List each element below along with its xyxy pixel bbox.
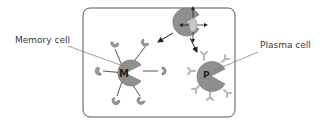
antibody-icon	[222, 55, 229, 62]
receptor-icon	[162, 67, 166, 75]
diagram-canvas: M P	[0, 0, 320, 121]
plasma-cell-icon	[197, 62, 225, 92]
antibody-icon	[201, 52, 207, 60]
memory-cell-label: Memory cell	[15, 35, 70, 45]
receptor-icon	[137, 97, 145, 104]
memory-cell-receptors	[103, 47, 158, 96]
antibody-icon	[224, 90, 231, 97]
antibody-icon	[207, 92, 213, 100]
antigen-icon	[189, 18, 197, 32]
antibody-icon	[188, 68, 195, 74]
receptor-icons	[95, 39, 166, 105]
receptor-icon	[95, 67, 101, 75]
memory-cell-letter: M	[119, 68, 129, 79]
plasma-cell-label: Plasma cell	[260, 40, 311, 50]
plasma-cell-letter: P	[203, 70, 210, 80]
receptor-icon	[111, 42, 119, 47]
receptor-icon	[112, 98, 120, 105]
receptor-icon	[141, 39, 149, 46]
antibody-icon	[192, 86, 199, 93]
memory-cell-pointer-line	[68, 46, 123, 66]
arrow-to-memory-cell	[158, 33, 173, 42]
